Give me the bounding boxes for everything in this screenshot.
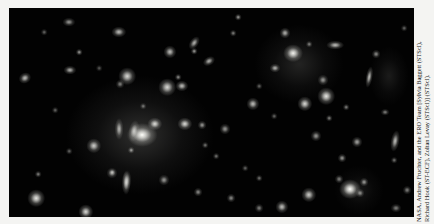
galaxy [198, 121, 207, 130]
galaxy [52, 107, 59, 114]
galaxy [158, 78, 176, 96]
galaxy [111, 27, 126, 38]
image-credit: NASA, Andrew Fruchter, and the ERO Team … [415, 22, 430, 222]
galaxy [63, 66, 76, 75]
galaxy [311, 131, 322, 142]
galaxy [389, 129, 401, 152]
galaxy [283, 44, 303, 62]
galaxy [140, 103, 147, 110]
galaxy [41, 29, 48, 36]
credit-line-2: Richard Hook (ST-ECF), Zoltan Levay (STS… [423, 22, 431, 222]
galaxy [403, 186, 412, 195]
galaxy [271, 113, 278, 120]
galaxy [191, 48, 198, 55]
galaxy [280, 28, 291, 39]
galaxy-cluster-photo [9, 8, 414, 217]
galaxy [116, 80, 125, 89]
galaxy [301, 187, 316, 202]
galaxy [175, 74, 182, 81]
galaxy [256, 175, 263, 182]
galaxy [381, 109, 390, 116]
galaxy [159, 175, 170, 186]
galaxy [242, 165, 249, 172]
galaxy [115, 118, 124, 140]
galaxy [230, 30, 237, 37]
galaxy [128, 147, 135, 154]
galaxy [235, 14, 242, 21]
galaxy [66, 148, 73, 155]
galaxy [391, 204, 402, 213]
galaxy [356, 189, 365, 198]
galaxy [76, 49, 83, 56]
galaxy [338, 154, 347, 163]
galaxy [326, 115, 333, 122]
galaxy [360, 178, 369, 187]
galaxy [275, 200, 288, 213]
galaxy [78, 204, 93, 217]
galaxy [213, 153, 220, 160]
galaxy [201, 54, 217, 68]
galaxy [297, 96, 312, 111]
galaxy [122, 171, 131, 195]
galaxy [227, 194, 236, 203]
galaxy [270, 64, 281, 73]
galaxy [255, 204, 264, 213]
galaxy [256, 83, 263, 90]
galaxy [96, 65, 103, 72]
galaxy [35, 171, 42, 178]
galaxy [318, 75, 329, 86]
galaxy [391, 157, 398, 164]
galaxy [163, 45, 176, 58]
galaxy [220, 124, 231, 135]
galaxy [317, 87, 335, 105]
galaxy [194, 188, 203, 197]
galaxy [109, 169, 116, 176]
galaxy [17, 70, 34, 86]
galaxy [372, 50, 381, 59]
galaxy [202, 142, 209, 149]
galaxy [401, 25, 408, 32]
galaxy [306, 41, 313, 48]
galaxy [326, 41, 344, 50]
galaxy [27, 189, 45, 207]
galaxy [62, 18, 75, 27]
galaxy [352, 137, 363, 148]
credit-line-1: NASA, Andrew Fruchter, and the ERO Team … [415, 22, 423, 222]
galaxy [246, 97, 259, 110]
galaxy [343, 104, 350, 111]
